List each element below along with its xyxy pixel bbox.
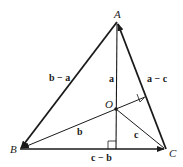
right-angle-mark-bc <box>108 141 116 149</box>
label-point-o: O <box>105 98 113 110</box>
label-point-b: B <box>10 143 17 155</box>
label-a-minus-c: a − c <box>147 73 168 84</box>
label-c-minus-b: c − b <box>91 152 112 163</box>
orthocenter-vector-diagram: A B C O b − a a − c a b c c − b <box>0 0 183 167</box>
label-b-minus-a: b − a <box>49 72 70 83</box>
label-point-a: A <box>113 8 121 20</box>
diagram-svg: A B C O b − a a − c a b c c − b <box>0 0 183 167</box>
altitude-b-extension <box>116 97 145 109</box>
label-b: b <box>77 126 83 137</box>
vector-b-minus-a <box>21 22 117 148</box>
label-a: a <box>109 73 114 84</box>
point-o-dot <box>114 107 118 111</box>
label-c: c <box>134 129 139 140</box>
vector-c <box>116 109 164 148</box>
vector-a <box>116 24 117 149</box>
label-point-c: C <box>169 147 177 159</box>
